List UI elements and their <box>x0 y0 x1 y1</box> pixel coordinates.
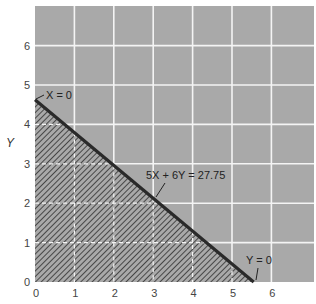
x-tick-label: 2 <box>112 287 118 299</box>
x-tick-label: 1 <box>72 287 78 299</box>
y-tick-label: 0 <box>24 276 30 288</box>
annotation-x-equals-0: X = 0 <box>46 89 72 101</box>
x-tick-label: 4 <box>191 287 197 299</box>
x-tick-label: 5 <box>230 287 236 299</box>
y-tick-label: 5 <box>24 79 30 91</box>
chart: 0123456 0123456 Y X = 0 5X + 6Y = 27.75 … <box>0 0 316 304</box>
y-tick-labels: 0123456 <box>24 40 30 288</box>
y-tick-label: 2 <box>24 197 30 209</box>
x-tick-label: 3 <box>151 287 157 299</box>
y-tick-label: 1 <box>24 237 30 249</box>
y-tick-label: 4 <box>24 118 30 130</box>
x-tick-label: 0 <box>33 287 39 299</box>
x-tick-label: 6 <box>269 287 275 299</box>
annotation-constraint: 5X + 6Y = 27.75 <box>146 169 225 181</box>
y-tick-label: 6 <box>24 40 30 52</box>
annotation-y-equals-0: Y = 0 <box>246 254 272 266</box>
y-axis-title: Y <box>6 136 15 150</box>
x-tick-labels: 0123456 <box>33 287 276 299</box>
y-tick-label: 3 <box>24 158 30 170</box>
